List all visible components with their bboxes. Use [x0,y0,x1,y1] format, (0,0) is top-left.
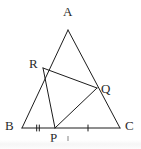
figure-canvas [0,0,141,149]
point-label-r: R [29,57,38,70]
vertex-label-b: B [5,119,14,132]
point-label-q: Q [101,82,110,95]
side-ac [68,30,120,128]
geometry-figure: A B C R Q P [0,0,141,149]
segment-rp [43,68,55,128]
vertex-label-a: A [63,5,72,18]
point-label-p: P [50,131,57,144]
segment-rq [43,68,97,88]
segment-pq [55,88,97,128]
vertex-label-c: C [125,119,134,132]
